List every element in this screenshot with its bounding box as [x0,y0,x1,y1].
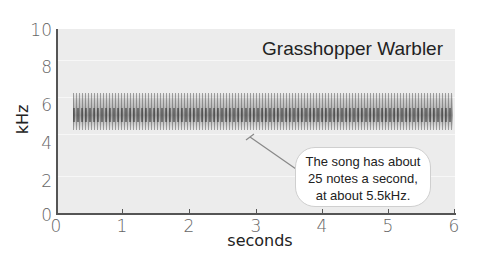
callout-pointer [0,0,491,263]
annotation-callout: The song has about 25 notes a second, at… [295,147,431,207]
callout-line-3: at about 5.5kHz. [296,187,430,204]
callout-line-1: The song has about [296,153,430,170]
callout-line-2: 25 notes a second, [296,170,430,187]
spectrogram-chart: 10 8 6 4 2 0 0 1 2 3 4 5 6 kHz seconds G… [0,0,491,263]
